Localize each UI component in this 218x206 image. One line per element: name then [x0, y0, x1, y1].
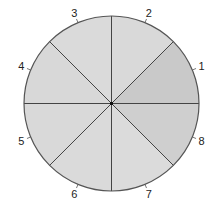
tick-mark	[27, 137, 31, 139]
segmented-circle-diagram: 12345678	[0, 0, 218, 206]
tick-mark	[192, 68, 196, 70]
tick-mark	[145, 19, 147, 23]
sector-label-8: 8	[199, 135, 205, 147]
tick-mark	[76, 19, 78, 23]
sector-label-7: 7	[146, 188, 152, 200]
sector-label-5: 5	[18, 135, 24, 147]
center-dot	[110, 102, 113, 105]
sector-label-3: 3	[71, 7, 77, 19]
tick-mark	[192, 137, 196, 139]
sector-label-2: 2	[146, 7, 152, 19]
tick-mark	[27, 68, 31, 70]
sector-label-1: 1	[199, 60, 205, 72]
sector-label-6: 6	[71, 188, 77, 200]
sector-label-4: 4	[18, 60, 24, 72]
